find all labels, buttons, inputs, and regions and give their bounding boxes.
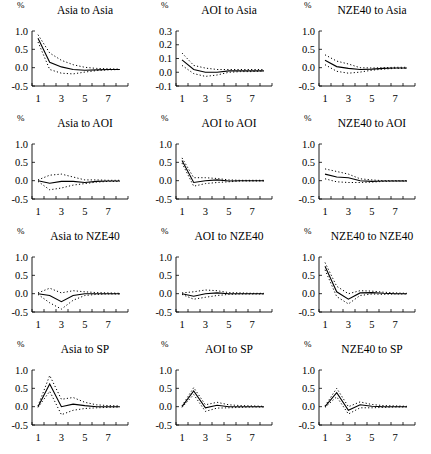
- y-tick-label: 1.0: [159, 365, 172, 376]
- y-tick-label: 0.5: [302, 44, 315, 55]
- y-tick-label: 0.5: [302, 157, 315, 168]
- y-tick-label: 0.5: [15, 44, 28, 55]
- y-tick-label: 0.5: [159, 157, 172, 168]
- plot-area: 1.00.50.0-0.51357: [287, 226, 430, 339]
- x-tick-label: 1: [322, 432, 327, 443]
- x-tick-label: 5: [369, 206, 374, 217]
- x-tick-label: 3: [59, 319, 64, 330]
- plot-area: 1.00.50.0-0.51357: [287, 113, 430, 226]
- y-tick-label: 0.0: [159, 67, 172, 78]
- upper-line: [325, 55, 407, 68]
- response-line: [38, 38, 120, 70]
- y-tick-label: 1.0: [302, 26, 315, 37]
- y-tick-label: 0.5: [15, 383, 28, 394]
- x-tick-label: 7: [250, 319, 255, 330]
- y-tick-label: -0.5: [11, 81, 28, 92]
- y-tick-label: 1.0: [15, 252, 28, 263]
- irf-panel: %NZE40 to Asia1.00.50.0-0.51357: [287, 0, 430, 113]
- y-tick-label: -0.5: [11, 194, 28, 205]
- x-tick-label: 1: [322, 93, 327, 104]
- x-tick-label: 7: [393, 206, 398, 217]
- response-line: [38, 384, 120, 407]
- irf-grid: %Asia to Asia1.00.50.0-0.51357%AOI to As…: [0, 0, 431, 454]
- plot-area: 1.00.50.0-0.51357: [0, 339, 143, 452]
- x-tick-label: 1: [322, 206, 327, 217]
- x-tick-label: 5: [226, 319, 231, 330]
- response-line: [325, 174, 407, 181]
- upper-line: [182, 53, 264, 70]
- x-tick-label: 5: [226, 206, 231, 217]
- x-tick-label: 3: [59, 432, 64, 443]
- x-tick-label: 7: [106, 319, 111, 330]
- x-tick-label: 3: [346, 93, 351, 104]
- upper-line: [325, 169, 407, 181]
- x-tick-label: 1: [322, 319, 327, 330]
- y-tick-label: 0.5: [159, 383, 172, 394]
- irf-panel: %AOI to NZE401.00.50.0-0.51357: [144, 226, 287, 339]
- y-tick-label: 1.0: [302, 139, 315, 150]
- y-tick-label: 0.0: [15, 288, 28, 299]
- upper-line: [38, 288, 120, 293]
- y-tick-label: 0.0: [15, 62, 28, 73]
- x-tick-label: 1: [35, 432, 40, 443]
- y-tick-label: 0.5: [302, 270, 315, 281]
- plot-area: 1.00.50.0-0.51357: [144, 113, 287, 226]
- x-tick-label: 3: [59, 93, 64, 104]
- x-tick-label: 1: [35, 93, 40, 104]
- plot-area: 1.00.50.0-0.51357: [0, 113, 143, 226]
- y-tick-label: -0.5: [298, 194, 315, 205]
- y-tick-label: 1.0: [15, 26, 28, 37]
- response-line: [182, 60, 264, 72]
- x-tick-label: 5: [369, 432, 374, 443]
- y-tick-label: 1.0: [159, 252, 172, 263]
- response-line: [325, 393, 407, 411]
- x-tick-label: 1: [35, 319, 40, 330]
- y-tick-label: 1.0: [159, 139, 172, 150]
- x-tick-label: 7: [250, 93, 255, 104]
- irf-panel: %NZE40 to NZE401.00.50.0-0.51357: [287, 226, 430, 339]
- upper-line: [182, 158, 264, 180]
- y-tick-label: 0.5: [302, 383, 315, 394]
- y-tick-label: 1.0: [302, 365, 315, 376]
- x-tick-label: 3: [203, 319, 208, 330]
- x-tick-label: 1: [179, 206, 184, 217]
- y-tick-label: -0.5: [155, 307, 172, 318]
- x-tick-label: 1: [179, 93, 184, 104]
- plot-area: 1.00.50.0-0.51357: [144, 339, 287, 452]
- plot-area: 1.00.50.0-0.51357: [144, 226, 287, 339]
- y-tick-label: 0.0: [302, 288, 315, 299]
- y-tick-label: 1.0: [15, 365, 28, 376]
- y-tick-label: 0.5: [159, 270, 172, 281]
- x-tick-label: 5: [82, 93, 87, 104]
- y-tick-label: 0.5: [15, 157, 28, 168]
- x-tick-label: 3: [203, 206, 208, 217]
- x-tick-label: 7: [106, 206, 111, 217]
- upper-line: [38, 174, 120, 180]
- x-tick-label: 7: [250, 432, 255, 443]
- upper-line: [38, 376, 120, 406]
- y-tick-label: -0.1: [155, 81, 172, 92]
- y-tick-label: -0.5: [11, 307, 28, 318]
- x-tick-label: 7: [106, 93, 111, 104]
- x-tick-label: 1: [35, 206, 40, 217]
- irf-panel: %Asia to AOI1.00.50.0-0.51357: [0, 113, 143, 226]
- y-tick-label: 0.0: [15, 175, 28, 186]
- y-tick-label: 0.0: [302, 62, 315, 73]
- irf-panel: %Asia to Asia1.00.50.0-0.51357: [0, 0, 143, 113]
- x-tick-label: 5: [82, 432, 87, 443]
- y-tick-label: 0.0: [159, 175, 172, 186]
- x-tick-label: 5: [369, 93, 374, 104]
- y-tick-label: 1.0: [15, 139, 28, 150]
- y-tick-label: 0.0: [159, 288, 172, 299]
- y-tick-label: -0.5: [298, 307, 315, 318]
- upper-line: [182, 388, 264, 407]
- x-tick-label: 7: [393, 319, 398, 330]
- lower-line: [182, 395, 264, 412]
- x-tick-label: 5: [369, 319, 374, 330]
- upper-line: [325, 388, 407, 406]
- plot-area: 1.00.50.0-0.51357: [287, 339, 430, 452]
- irf-panel: %Asia to SP1.00.50.0-0.51357: [0, 339, 143, 452]
- y-tick-label: -0.5: [298, 81, 315, 92]
- x-tick-label: 1: [179, 319, 184, 330]
- y-tick-label: 0.3: [159, 26, 172, 37]
